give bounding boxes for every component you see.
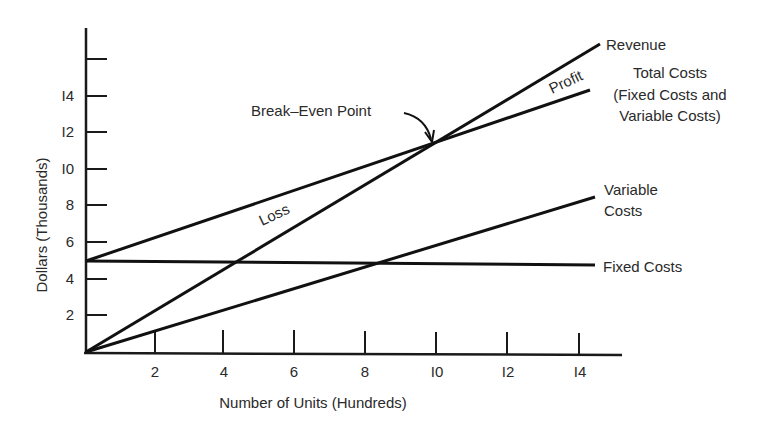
x-tick-label: 4: [220, 363, 228, 380]
y-tick-label: I4: [61, 87, 74, 104]
y-tick-label: I2: [61, 123, 74, 140]
break-even-chart: 2 4 6 8 I0 I2 I4 2 4 6 8 I0 I2 I4 Number…: [0, 0, 771, 432]
loss-label: Loss: [256, 200, 292, 229]
x-tick-label: I2: [502, 363, 515, 380]
x-tick-labels: 2 4 6 8 I0 I2 I4: [151, 363, 586, 380]
x-axis-label: Number of Units (Hundreds): [219, 394, 407, 411]
x-tick-label: I0: [431, 363, 444, 380]
y-axis-label: Dollars (Thousands): [33, 157, 50, 292]
total-costs-label-line3: Variable Costs): [619, 107, 720, 124]
x-tick-label: 6: [290, 363, 298, 380]
break-even-label: Break–Even Point: [251, 102, 372, 119]
x-ticks: [155, 330, 579, 355]
y-tick-label: 4: [66, 270, 74, 287]
variable-costs-label: Variable: [604, 181, 658, 198]
y-tick-label: 2: [66, 306, 74, 323]
total-costs-label-line2: (Fixed Costs and: [613, 86, 726, 103]
y-tick-label: 6: [66, 233, 74, 250]
y-ticks: [86, 59, 107, 315]
x-tick-label: I4: [574, 363, 587, 380]
fixed-costs-line: [86, 261, 595, 265]
variable-costs-label-line2: Costs: [604, 202, 642, 219]
y-tick-label: I0: [61, 160, 74, 177]
x-tick-label: 8: [361, 363, 369, 380]
variable-costs-line: [86, 197, 595, 352]
fixed-costs-label: Fixed Costs: [603, 258, 682, 275]
y-tick-label: 8: [66, 196, 74, 213]
x-axis: [84, 353, 622, 355]
revenue-label: Revenue: [606, 36, 666, 53]
y-tick-labels: 2 4 6 8 I0 I2 I4: [61, 87, 74, 323]
revenue-line: [86, 44, 600, 352]
x-tick-label: 2: [151, 363, 159, 380]
total-costs-label: Total Costs: [633, 64, 707, 81]
